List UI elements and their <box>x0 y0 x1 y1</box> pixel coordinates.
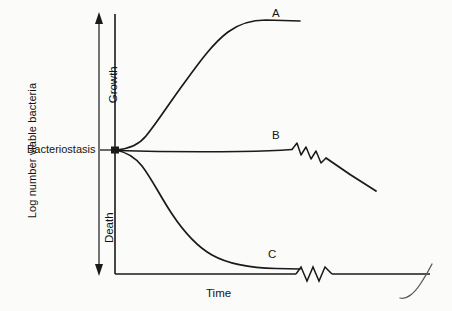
curve-b-break-zigzag <box>292 143 326 163</box>
curve-b-label: B <box>272 130 280 142</box>
growth-indicator-arrow <box>95 12 103 150</box>
death-direction-label: Death <box>104 200 116 256</box>
curve-a-label: A <box>272 8 280 20</box>
curve-b-path <box>116 150 292 152</box>
curve-b-tail-path <box>326 158 376 191</box>
bacteriostasis-label: Bacteriostasis <box>27 144 95 155</box>
death-arrowhead-icon <box>95 264 103 276</box>
growth-direction-label: Growth <box>108 54 120 116</box>
death-indicator-arrow <box>95 150 103 276</box>
growth-arrowhead-icon <box>95 12 103 24</box>
x-axis-break-zigzag <box>296 267 332 281</box>
bacterial-growth-death-diagram: Log number viable bacteria Growth Death … <box>0 0 452 311</box>
axis-lines <box>115 14 430 274</box>
diagram-canvas <box>0 0 452 311</box>
x-axis-label: Time <box>206 288 231 300</box>
curve-c-label: C <box>268 249 276 261</box>
scan-artifact-mark <box>400 264 432 298</box>
